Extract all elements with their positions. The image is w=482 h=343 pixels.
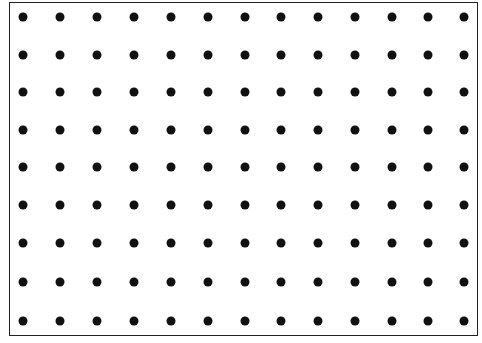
- grid-dot: [460, 239, 469, 248]
- grid-dot: [314, 201, 323, 210]
- grid-dot: [314, 126, 323, 135]
- grid-dot: [241, 317, 250, 326]
- grid-dot: [93, 317, 102, 326]
- grid-dot: [167, 126, 176, 135]
- grid-dot: [167, 239, 176, 248]
- grid-dot: [351, 201, 360, 210]
- grid-dot: [19, 126, 28, 135]
- grid-dot: [130, 239, 139, 248]
- grid-dot: [277, 126, 286, 135]
- grid-dot: [204, 201, 213, 210]
- grid-dot: [388, 13, 397, 22]
- grid-dot: [388, 201, 397, 210]
- grid-dot: [56, 13, 65, 22]
- grid-dot: [56, 239, 65, 248]
- grid-dot: [19, 239, 28, 248]
- grid-dot: [241, 163, 250, 172]
- grid-dot: [241, 51, 250, 60]
- grid-dot: [241, 88, 250, 97]
- grid-dot: [19, 278, 28, 287]
- grid-dot: [388, 51, 397, 60]
- grid-dot: [56, 317, 65, 326]
- grid-dot: [130, 201, 139, 210]
- grid-dot: [56, 126, 65, 135]
- grid-dot: [93, 126, 102, 135]
- grid-dot: [19, 201, 28, 210]
- grid-dot: [351, 317, 360, 326]
- grid-dot: [277, 13, 286, 22]
- grid-dot: [351, 126, 360, 135]
- grid-dot: [204, 126, 213, 135]
- grid-dot: [424, 13, 433, 22]
- grid-dot: [388, 126, 397, 135]
- grid-dot: [241, 126, 250, 135]
- grid-dot: [351, 51, 360, 60]
- grid-dot: [314, 13, 323, 22]
- grid-dot: [204, 278, 213, 287]
- grid-dot: [424, 201, 433, 210]
- grid-dot: [277, 201, 286, 210]
- grid-dot: [460, 51, 469, 60]
- grid-dot: [19, 51, 28, 60]
- grid-dot: [314, 51, 323, 60]
- grid-dot: [277, 51, 286, 60]
- grid-dot: [424, 239, 433, 248]
- grid-dot: [19, 13, 28, 22]
- grid-dot: [204, 317, 213, 326]
- grid-dot: [277, 239, 286, 248]
- grid-dot: [204, 13, 213, 22]
- grid-dot: [460, 13, 469, 22]
- grid-dot: [167, 163, 176, 172]
- grid-dot: [241, 13, 250, 22]
- grid-dot: [56, 201, 65, 210]
- grid-dot: [314, 163, 323, 172]
- grid-dot: [424, 51, 433, 60]
- grid-dot: [277, 88, 286, 97]
- grid-dot: [388, 317, 397, 326]
- grid-dot: [93, 88, 102, 97]
- grid-dot: [130, 126, 139, 135]
- grid-dot: [204, 239, 213, 248]
- grid-dot: [167, 88, 176, 97]
- grid-dot: [204, 51, 213, 60]
- grid-dot: [351, 88, 360, 97]
- grid-dot: [130, 88, 139, 97]
- grid-dot: [130, 13, 139, 22]
- grid-dot: [277, 278, 286, 287]
- grid-dot: [93, 163, 102, 172]
- grid-dot: [277, 163, 286, 172]
- grid-dot: [56, 163, 65, 172]
- grid-dot: [314, 239, 323, 248]
- grid-dot: [19, 163, 28, 172]
- grid-dot: [93, 13, 102, 22]
- grid-dot: [56, 278, 65, 287]
- grid-dot: [460, 317, 469, 326]
- grid-dot: [388, 88, 397, 97]
- grid-dot: [351, 13, 360, 22]
- grid-dot: [351, 239, 360, 248]
- grid-dot: [167, 13, 176, 22]
- grid-dot: [56, 51, 65, 60]
- grid-dot: [93, 51, 102, 60]
- grid-dot: [241, 278, 250, 287]
- grid-dot: [460, 126, 469, 135]
- grid-dot: [424, 126, 433, 135]
- grid-dot: [424, 88, 433, 97]
- grid-dot: [314, 88, 323, 97]
- grid-dot: [314, 317, 323, 326]
- grid-dot: [167, 278, 176, 287]
- grid-dot: [277, 317, 286, 326]
- grid-dot: [130, 317, 139, 326]
- grid-dot: [388, 163, 397, 172]
- grid-dot: [167, 201, 176, 210]
- grid-dot: [204, 163, 213, 172]
- grid-dot: [241, 201, 250, 210]
- grid-dot: [460, 163, 469, 172]
- grid-dot: [314, 278, 323, 287]
- grid-dot: [93, 239, 102, 248]
- grid-dot: [93, 278, 102, 287]
- grid-dot: [424, 317, 433, 326]
- grid-dot: [167, 317, 176, 326]
- grid-dot: [167, 51, 176, 60]
- grid-dot: [460, 201, 469, 210]
